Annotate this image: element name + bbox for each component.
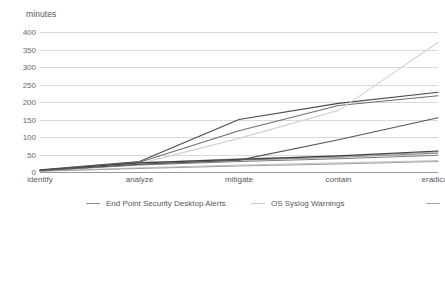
- legend-swatch-icon: [86, 203, 100, 204]
- y-axis-tick-label: 350: [2, 45, 36, 54]
- y-axis-tick-label: 400: [2, 28, 36, 37]
- y-axis-title: minutes: [26, 9, 56, 19]
- x-axis-line: [40, 172, 438, 173]
- y-axis-tick-label: 200: [2, 98, 36, 107]
- y-axis-tick-label: 150: [2, 115, 36, 124]
- y-axis-tick-label: 100: [2, 133, 36, 142]
- legend-item[interactable]: End Point Security Desktop Alerts: [86, 196, 251, 211]
- x-axis-tick-label: eradicate: [422, 175, 445, 184]
- x-axis-tick-label: identify: [27, 175, 52, 184]
- y-axis-tick-label: 250: [2, 80, 36, 89]
- y-axis-tick-label: 300: [2, 63, 36, 72]
- plot-area: [40, 32, 438, 172]
- y-axis-tick-label: 50: [2, 150, 36, 159]
- legend-item[interactable]: Unsecure Configuration Warnings: [426, 196, 445, 211]
- line-chart: minutes 050100150200250300350400 identif…: [0, 0, 445, 281]
- legend-swatch-icon: [426, 203, 440, 204]
- x-axis-tick-label: analyze: [126, 175, 154, 184]
- x-axis-tick-label: contain: [326, 175, 352, 184]
- y-axis-ticks: 050100150200250300350400: [0, 32, 36, 172]
- legend-item-label: End Point Security Desktop Alerts: [106, 200, 226, 208]
- series-line: [40, 43, 438, 171]
- legend-swatch-icon: [251, 203, 265, 204]
- x-axis-tick-label: mitigate: [225, 175, 253, 184]
- chart-legend: End Point Security Desktop AlertsOS Sysl…: [86, 196, 426, 211]
- legend-item[interactable]: OS Syslog Warnings: [251, 196, 426, 211]
- legend-item-label: OS Syslog Warnings: [271, 200, 345, 208]
- x-axis-labels: identifyanalyzemitigatecontaineradicate: [40, 175, 438, 189]
- series-lines: [40, 32, 438, 172]
